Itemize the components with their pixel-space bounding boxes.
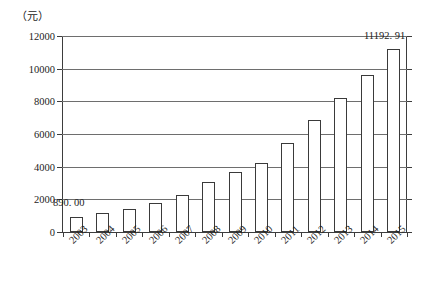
y-tick-label-6000: 6000 <box>34 129 55 140</box>
y-tick-label-8000: 8000 <box>34 96 55 107</box>
data-label-2003: 890. 00 <box>53 197 85 209</box>
gridline-10000 <box>62 69 407 70</box>
gridline-6000 <box>62 134 407 135</box>
gridline-8000 <box>62 101 407 102</box>
x-tick-mark-10 <box>328 233 329 237</box>
x-tick-mark-2 <box>116 233 117 237</box>
x-tick-mark-4 <box>169 233 170 237</box>
y-tick-mark-12000-left <box>57 36 62 37</box>
gridline-12000 <box>62 36 407 37</box>
y-tick-mark-6000-right <box>407 134 412 135</box>
y-tick-mark-0-left <box>57 232 62 233</box>
x-tick-mark-end <box>407 233 408 237</box>
y-tick-label-0: 0 <box>50 227 55 238</box>
x-tick-mark-8 <box>275 233 276 237</box>
y-tick-label-4000: 4000 <box>34 162 55 173</box>
x-tick-mark-3 <box>142 233 143 237</box>
x-tick-mark-6 <box>222 233 223 237</box>
gridline-4000 <box>62 167 407 168</box>
x-tick-mark-5 <box>195 233 196 237</box>
x-tick-mark-12 <box>381 233 382 237</box>
x-tick-mark-9 <box>301 233 302 237</box>
x-tick-mark-11 <box>354 233 355 237</box>
y-tick-mark-10000-right <box>407 69 412 70</box>
bar-2012 <box>308 120 321 232</box>
y-tick-label-12000: 12000 <box>29 31 55 42</box>
data-label-2015: 11192. 91 <box>364 30 405 42</box>
bar-2013 <box>334 98 347 232</box>
y-tick-mark-6000-left <box>57 134 62 135</box>
y-tick-mark-4000-left <box>57 167 62 168</box>
x-tick-mark-7 <box>248 233 249 237</box>
y-tick-label-2000: 2000 <box>34 194 55 205</box>
y-axis-unit-label: （元） <box>16 10 49 23</box>
x-axis-category-labels: 2003200420052006200720082009201020112012… <box>62 238 407 288</box>
y-tick-mark-4000-right <box>407 167 412 168</box>
bar-2010 <box>255 163 268 232</box>
y-axis-tick-labels: 12000 10000 8000 6000 4000 2000 0 <box>0 36 55 233</box>
x-tick-mark-0 <box>63 233 64 237</box>
y-tick-mark-10000-left <box>57 69 62 70</box>
bar-2014 <box>361 75 374 232</box>
x-tick-mark-1 <box>89 233 90 237</box>
y-tick-mark-8000-left <box>57 101 62 102</box>
y-tick-mark-2000-right <box>407 199 412 200</box>
y-tick-mark-8000-right <box>407 101 412 102</box>
bar-chart: （元） 12000 10000 8000 6000 4000 2000 0 <box>0 0 437 289</box>
bar-2011 <box>281 143 294 232</box>
bar-2015 <box>387 49 400 232</box>
y-tick-label-10000: 10000 <box>29 64 55 75</box>
plot-area <box>62 36 407 233</box>
y-tick-mark-12000-right <box>407 36 412 37</box>
